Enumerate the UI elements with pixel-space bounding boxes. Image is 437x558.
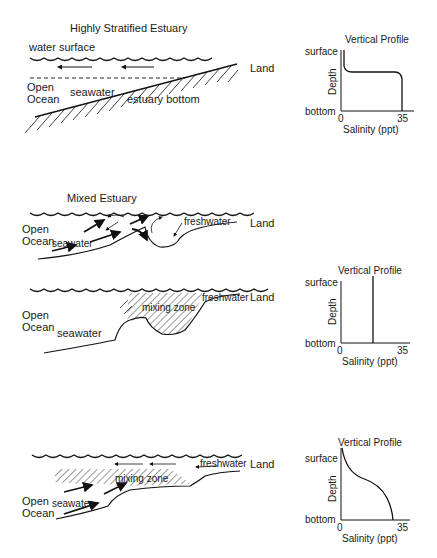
seawater-label: seawater (70, 86, 115, 98)
profile-1-chart (341, 50, 414, 111)
profile-3-bottom: bottom (305, 514, 336, 526)
profile-2-x-label: Salinity (ppt) (342, 356, 398, 368)
profile-2-chart (341, 276, 410, 343)
open-label: Open (22, 309, 49, 321)
profile-3-surface: surface (305, 453, 338, 465)
open-label: Open (22, 223, 49, 235)
seawater-label: seawater (57, 327, 102, 339)
profile-2-x-max: 35 (397, 345, 408, 357)
water-surface-label: water surface (29, 41, 95, 53)
seawater-label: seawater (52, 238, 93, 250)
profile-1-depth-label: Depth (327, 68, 339, 95)
land-label: Land (250, 62, 274, 74)
open-label: Open (22, 495, 49, 507)
mixing-zone-label: mixing zone (142, 302, 195, 314)
ocean-label: Ocean (22, 507, 54, 519)
profile-3-x-max: 35 (397, 522, 408, 534)
profile-2-surface: surface (305, 277, 338, 289)
panel-2-title: Mixed Estuary (67, 192, 137, 204)
land-label: Land (250, 291, 274, 303)
profile-2-depth-label: Depth (327, 298, 339, 325)
profile-1-x-max: 35 (397, 113, 408, 125)
profile-1-title: Vertical Profile (345, 34, 409, 46)
panel-1-title: Highly Stratified Estuary (70, 22, 187, 34)
profile-2-bottom: bottom (305, 338, 336, 350)
profile-3-title: Vertical Profile (338, 437, 402, 449)
mixing-zone-label: mixing zone (115, 473, 168, 485)
land-label: Land (250, 217, 274, 229)
estuary-diagram-graphics (0, 0, 437, 558)
ocean-label: Ocean (27, 93, 59, 105)
land-label: Land (250, 458, 274, 470)
water-surface-waves (30, 58, 212, 61)
profile-1-surface: surface (305, 46, 338, 58)
freshwater-label: freshwater (200, 458, 247, 470)
freshwater-label: freshwater (184, 216, 231, 228)
profile-3-depth-label: Depth (327, 475, 339, 502)
estuary-bottom-label: estuary bottom (127, 93, 200, 105)
ocean-label: Ocean (22, 321, 54, 333)
ocean-label: Ocean (22, 235, 54, 247)
freshwater-label: freshwater (202, 292, 249, 304)
seawater-label: seawater (52, 498, 93, 510)
profile-3-x-label: Salinity (ppt) (342, 533, 398, 545)
profile-3-chart (341, 448, 410, 520)
profile-2-title: Vertical Profile (338, 265, 402, 277)
profile-1-bottom: bottom (305, 106, 336, 118)
profile-1-x-label: Salinity (ppt) (343, 124, 399, 136)
open-label: Open (27, 81, 54, 93)
